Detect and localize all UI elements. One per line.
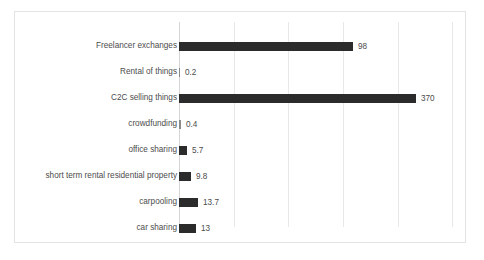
- value-label: 0.2: [185, 68, 196, 77]
- bar: [179, 120, 181, 129]
- category-label: Freelancer exchanges: [0, 41, 177, 51]
- bar-group: 0.2: [179, 59, 196, 85]
- table-row: short term rental residential property 9…: [15, 163, 467, 189]
- bar: [179, 42, 353, 51]
- bar: [179, 172, 191, 181]
- bar-group: 13: [179, 215, 210, 241]
- bar-group: 13.7: [179, 189, 219, 215]
- table-row: C2C selling things 370: [15, 85, 467, 111]
- value-label: 13: [201, 224, 210, 233]
- table-row: Freelancer exchanges 98: [15, 33, 467, 59]
- table-row: car sharing 13: [15, 215, 467, 241]
- category-label: C2C selling things: [0, 93, 177, 103]
- category-label: short term rental residential property: [0, 171, 177, 181]
- value-label: 98: [358, 42, 367, 51]
- bar: [179, 224, 196, 233]
- category-label: office sharing: [0, 145, 177, 155]
- bar-group: 98: [179, 33, 367, 59]
- table-row: crowdfunding 0.4: [15, 111, 467, 137]
- bar-rows: Freelancer exchanges 98 Rental of things…: [15, 23, 467, 233]
- category-label: car sharing: [0, 223, 177, 233]
- category-label: Rental of things: [0, 67, 177, 77]
- table-row: office sharing 5.7: [15, 137, 467, 163]
- value-label: 0.4: [186, 120, 197, 129]
- chart-frame: Freelancer exchanges 98 Rental of things…: [14, 11, 466, 243]
- value-label: 5.7: [192, 146, 203, 155]
- bar-group: 0.4: [179, 111, 197, 137]
- bar: [179, 68, 180, 77]
- bar: [179, 94, 416, 103]
- bar-group: 5.7: [179, 137, 203, 163]
- value-label: 370: [421, 94, 435, 103]
- value-label: 13.7: [203, 198, 219, 207]
- bar-group: 9.8: [179, 163, 207, 189]
- value-label: 9.8: [196, 172, 207, 181]
- bar-group: 370: [179, 85, 435, 111]
- category-label: crowdfunding: [0, 119, 177, 129]
- bar: [179, 146, 187, 155]
- bar: [179, 198, 198, 207]
- table-row: Rental of things 0.2: [15, 59, 467, 85]
- table-row: carpooling 13.7: [15, 189, 467, 215]
- category-label: carpooling: [0, 197, 177, 207]
